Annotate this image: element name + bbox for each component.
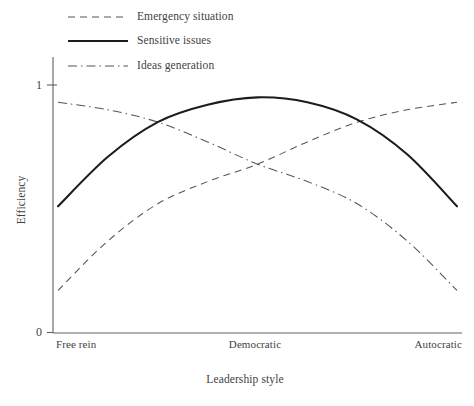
x-axis-tick-label-free-rein: Free rein	[56, 339, 96, 350]
chart-figure: Emergency situation Sensitive issues Ide…	[0, 0, 474, 406]
x-axis-title: Leadership style	[206, 374, 283, 386]
y-axis-tick-label-0: 0	[36, 326, 42, 338]
legend-label-emergency-situation: Emergency situation	[137, 11, 234, 23]
x-axis-tick-label-democratic: Democratic	[229, 339, 281, 350]
series-line-ideas-generation	[58, 102, 457, 290]
x-axis-tick-label-autocratic: Autocratic	[415, 339, 462, 350]
series-line-emergency-situation	[58, 102, 457, 290]
legend-label-ideas-generation: Ideas generation	[137, 60, 214, 72]
legend-label-sensitive-issues: Sensitive issues	[137, 35, 211, 47]
y-axis-tick-label-1: 1	[36, 79, 42, 91]
y-axis-title: Efficiency	[16, 176, 28, 225]
series-line-sensitive-issues	[58, 97, 457, 206]
